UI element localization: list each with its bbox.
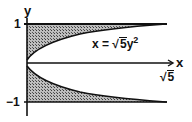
x-axis-label: x: [176, 56, 183, 69]
plot-svg: [0, 0, 192, 122]
equation-radical: √: [112, 37, 119, 51]
shaded-region-bottom: [27, 66, 167, 102]
region-figure: y x 1 −1 √5 x = √5y2: [0, 0, 192, 122]
x-tick-sqrt5: √5: [160, 70, 174, 83]
equation-radicand: 5: [119, 37, 127, 50]
curve-equation: x = √5y2: [92, 36, 138, 50]
y-axis-label: y: [24, 4, 31, 17]
y-tick-1: 1: [14, 18, 21, 30]
y-tick-minus-1: −1: [6, 96, 20, 108]
radical-sign: √: [160, 70, 167, 84]
equation-lhs: x =: [92, 37, 112, 51]
equation-exponent: 2: [133, 35, 138, 45]
radicand: 5: [167, 70, 175, 83]
